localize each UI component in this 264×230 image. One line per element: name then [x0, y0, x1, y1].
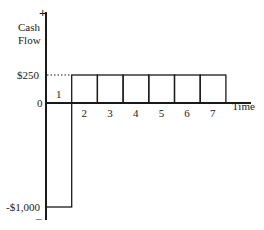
- y-tick-0: 0: [37, 97, 43, 109]
- x-tick-7: 7: [210, 107, 216, 119]
- bar-period-1: [46, 103, 72, 207]
- cash-flow-chart: 1234567 + Cash Flow $250 0 -$1,000 – Tim…: [0, 0, 264, 230]
- y-positive-marker: +: [39, 5, 46, 20]
- y-axis-label-line1: Cash: [18, 21, 41, 33]
- bar-period-5: [149, 75, 175, 103]
- bar-period-4: [123, 75, 149, 103]
- y-negative-marker: –: [35, 212, 42, 224]
- x-tick-5: 5: [159, 107, 165, 119]
- y-axis-label-line2: Flow: [18, 34, 41, 46]
- y-tick-250: $250: [17, 69, 40, 81]
- x-tick-2: 2: [82, 107, 88, 119]
- bar-period-2: [72, 75, 98, 103]
- x-axis-label: Time: [232, 100, 255, 112]
- bar-period-3: [97, 75, 123, 103]
- bars: [46, 75, 226, 207]
- x-tick-6: 6: [184, 107, 190, 119]
- x-tick-1: 1: [56, 88, 62, 100]
- bar-period-6: [175, 75, 201, 103]
- x-tick-4: 4: [133, 107, 139, 119]
- bar-period-7: [200, 75, 226, 103]
- x-tick-3: 3: [107, 107, 113, 119]
